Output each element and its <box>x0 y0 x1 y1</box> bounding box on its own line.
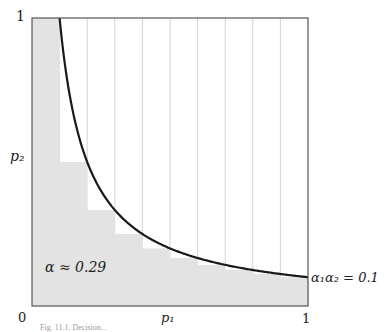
figure-caption: Fig. 11.1. Decision... <box>40 323 107 332</box>
shaded-step <box>60 162 88 306</box>
shaded-step <box>225 270 253 306</box>
shaded-step <box>170 258 198 306</box>
tick-x-1: 1 <box>302 311 310 326</box>
shaded-step <box>142 248 170 306</box>
shaded-step <box>198 265 226 306</box>
tick-y-1: 1 <box>16 8 25 24</box>
y-axis-label: p₂ <box>10 148 25 164</box>
alpha-annotation: α ≈ 0.29 <box>45 259 106 275</box>
shaded-step <box>280 277 308 306</box>
shaded-step <box>253 274 281 306</box>
shaded-step <box>115 234 143 306</box>
curve-label: α₁α₂ = 0.1 <box>311 270 379 285</box>
x-axis-label: p₁ <box>161 310 175 325</box>
tick-x-0: 0 <box>18 310 26 325</box>
